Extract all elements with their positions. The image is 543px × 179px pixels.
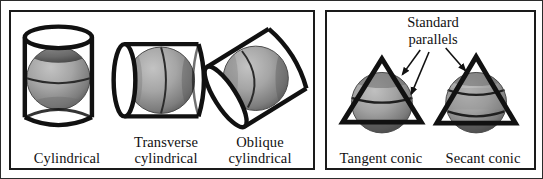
diagram-secant-conic (437, 57, 515, 145)
diagram-transverse-cylindrical (114, 44, 208, 116)
panel-conic-projections: Standard parallels Tangent conic Secant … (325, 10, 536, 170)
diagram-tangent-conic (343, 59, 421, 145)
sphere-tangent (349, 65, 416, 145)
caption-cylindrical: Cylindrical (15, 150, 119, 166)
arrow-to-tangent-parallel (403, 50, 421, 74)
figure-container: Cylindrical Transverse cylindrical Obliq… (0, 0, 543, 179)
caption-oblique-cylindrical: Oblique cylindrical (207, 134, 313, 166)
caption-secant-conic: Secant conic (431, 150, 535, 166)
arrow-to-secant-upper-parallel (446, 48, 466, 70)
panel-cylindrical-projections: Cylindrical Transverse cylindrical Obliq… (9, 10, 315, 170)
diagram-cylindrical (25, 27, 92, 125)
label-standard-parallels: Standard parallels (373, 14, 493, 47)
caption-transverse-cylindrical: Transverse cylindrical (111, 134, 221, 166)
sphere-secant (443, 63, 510, 145)
caption-tangent-conic: Tangent conic (329, 150, 433, 166)
